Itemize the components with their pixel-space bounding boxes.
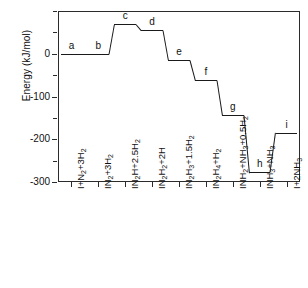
energy-level-g	[222, 115, 244, 116]
level-tag-d: d	[145, 16, 159, 27]
energy-level-h	[249, 172, 271, 173]
x-tick-label: IN2+3H2	[102, 154, 113, 189]
energy-level-a	[61, 54, 83, 55]
level-tag-c: c	[118, 10, 132, 21]
energy-level-c	[114, 24, 136, 25]
energy-level-f	[195, 80, 217, 81]
energy-level-d	[141, 30, 163, 31]
x-tick-label: I+2NH3	[291, 158, 302, 189]
energy-level-i	[276, 133, 298, 134]
level-tag-b: b	[91, 40, 105, 51]
x-tick-label: IN2H2+2H	[156, 147, 167, 189]
y-tick-label: -100	[0, 91, 50, 102]
y-tick-major	[52, 97, 57, 98]
y-tick-label: -300	[0, 176, 50, 187]
level-tag-a: a	[64, 40, 78, 51]
y-tick-label: -200	[0, 133, 50, 144]
x-tick-label: I+N2+3H2	[75, 148, 86, 189]
x-tick	[98, 182, 99, 187]
level-tag-e: e	[172, 46, 186, 57]
y-tick-major	[52, 182, 57, 183]
y-tick-minor	[53, 161, 57, 162]
level-tag-i: i	[280, 119, 294, 130]
level-tag-g: g	[226, 101, 240, 112]
x-tick-label: IN2H3+1.5H2	[183, 135, 194, 189]
x-tick	[71, 182, 72, 187]
y-tick-major	[52, 139, 57, 140]
x-tick	[152, 182, 153, 187]
y-axis-title: Energy (kJ/mol)	[21, 0, 32, 136]
x-tick	[179, 182, 180, 187]
x-tick	[125, 182, 126, 187]
x-tick-label: IN2H4+H2	[210, 148, 221, 189]
level-tag-f: f	[199, 66, 213, 77]
x-tick	[260, 182, 261, 187]
x-tick-label: IN2H+2.5H2	[129, 139, 140, 189]
level-tag-h: h	[253, 158, 267, 169]
y-tick-minor	[53, 32, 57, 33]
y-tick-major	[52, 54, 57, 55]
energy-level-e	[168, 60, 190, 61]
x-tick	[233, 182, 234, 187]
x-tick	[287, 182, 288, 187]
y-tick-label: 0	[0, 48, 50, 59]
y-tick-minor	[53, 11, 57, 12]
x-tick	[206, 182, 207, 187]
y-tick-minor	[53, 75, 57, 76]
y-tick-minor	[53, 118, 57, 119]
energy-level-b	[88, 54, 110, 55]
energy-diagram-figure: Energy (kJ/mol) 0-100-200-300 I+N2+3H2IN…	[0, 0, 308, 288]
